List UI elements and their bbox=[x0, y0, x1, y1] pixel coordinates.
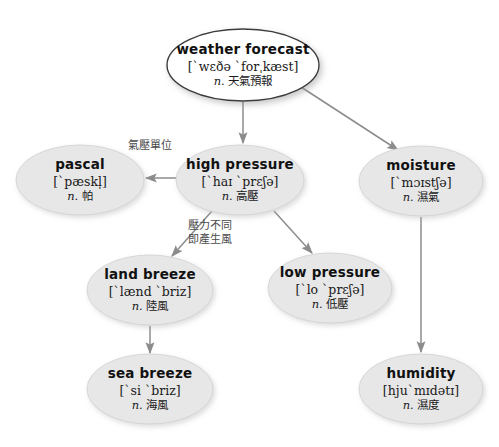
node-term: high pressure bbox=[176, 158, 304, 172]
node-low-pressure[interactable]: low pressure[ˋlo ˋprɛʃə]n. 低壓 bbox=[268, 266, 392, 311]
node-part-of-speech: n. bbox=[403, 190, 414, 204]
node-gloss: n. 低壓 bbox=[268, 299, 392, 311]
node-part-of-speech: n. bbox=[132, 299, 143, 313]
node-gloss: n. 天氣預報 bbox=[167, 76, 319, 88]
node-gloss: n. 濕度 bbox=[359, 400, 483, 412]
node-term: pascal bbox=[16, 158, 144, 172]
edge-label-line: 氣壓單位 bbox=[128, 139, 172, 153]
node-term: humidity bbox=[359, 367, 483, 381]
node-term: weather forecast bbox=[167, 43, 319, 57]
node-land-breeze[interactable]: land breeze[ˋlænd ˋbriz]n. 陸風 bbox=[87, 268, 213, 313]
node-part-of-speech: n. bbox=[214, 74, 225, 88]
label-pressure-unit: 氣壓單位 bbox=[128, 139, 172, 153]
edge-forecast-moisture bbox=[301, 87, 398, 150]
node-humidity[interactable]: humidity[hjuˋmɪdətɪ]n. 濕度 bbox=[359, 367, 483, 412]
node-ipa: [ˋlo ˋprɛʃə] bbox=[268, 284, 392, 297]
node-term: low pressure bbox=[268, 266, 392, 280]
node-term: land breeze bbox=[87, 268, 213, 282]
node-gloss: n. 高壓 bbox=[176, 191, 304, 203]
node-ipa: [ˋsi ˋbriz] bbox=[87, 385, 213, 398]
node-high-pressure[interactable]: high pressure[ˋhaɪ ˋprɛʃə]n. 高壓 bbox=[176, 158, 304, 203]
node-ipa: [hjuˋmɪdətɪ] bbox=[359, 385, 483, 398]
node-ipa: [ˋhaɪ ˋprɛʃə] bbox=[176, 176, 304, 189]
node-ipa: [ˋwɛðə ˋforˌkæst] bbox=[167, 61, 319, 74]
node-part-of-speech: n. bbox=[403, 398, 414, 412]
node-gloss-text: 帕 bbox=[82, 189, 93, 203]
node-gloss-text: 陸風 bbox=[146, 299, 168, 313]
node-ipa: [ˋmɔɪstʃə] bbox=[359, 177, 483, 190]
node-term: moisture bbox=[359, 159, 483, 173]
node-pascal[interactable]: pascal[ˋpæskl̩]n. 帕 bbox=[16, 158, 144, 203]
node-sea-breeze[interactable]: sea breeze[ˋsi ˋbriz]n. 海風 bbox=[87, 367, 213, 412]
node-gloss: n. 帕 bbox=[16, 191, 144, 203]
node-part-of-speech: n. bbox=[222, 189, 233, 203]
node-gloss: n. 濕氣 bbox=[359, 192, 483, 204]
edge-label-line: 壓力不同 bbox=[188, 219, 232, 233]
node-ipa: [ˋlænd ˋbriz] bbox=[87, 286, 213, 299]
edge-high-low bbox=[274, 211, 312, 253]
node-ipa: [ˋpæskl̩] bbox=[16, 176, 144, 189]
node-gloss: n. 海風 bbox=[87, 400, 213, 412]
node-term: sea breeze bbox=[87, 367, 213, 381]
node-weather-forecast[interactable]: weather forecast[ˋwɛðə ˋforˌkæst]n. 天氣預報 bbox=[167, 43, 319, 88]
node-gloss-text: 天氣預報 bbox=[228, 74, 272, 88]
node-gloss-text: 低壓 bbox=[326, 297, 348, 311]
label-wind-generation: 壓力不同即產生風 bbox=[188, 219, 232, 247]
edge-label-line: 即產生風 bbox=[188, 233, 232, 247]
node-part-of-speech: n. bbox=[67, 189, 78, 203]
node-gloss-text: 濕氣 bbox=[417, 190, 439, 204]
node-part-of-speech: n. bbox=[312, 297, 323, 311]
node-gloss-text: 高壓 bbox=[236, 189, 258, 203]
node-moisture[interactable]: moisture[ˋmɔɪstʃə]n. 濕氣 bbox=[359, 159, 483, 204]
node-gloss: n. 陸風 bbox=[87, 301, 213, 313]
node-gloss-text: 海風 bbox=[146, 398, 168, 412]
node-part-of-speech: n. bbox=[132, 398, 143, 412]
node-gloss-text: 濕度 bbox=[417, 398, 439, 412]
